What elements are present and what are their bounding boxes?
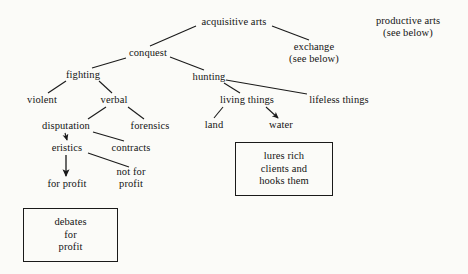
edge-acquisitive-conquest — [150, 26, 196, 46]
edge-conquest-fighting — [92, 58, 126, 68]
node-living-things: living things — [220, 94, 274, 106]
edge-fighting-verbal — [99, 81, 112, 93]
node-productive-arts: productive arts (see below) — [376, 15, 440, 38]
node-conquest: conquest — [129, 47, 167, 59]
node-acquisitive-arts: acquisitive arts — [202, 16, 267, 28]
node-water: water — [269, 119, 293, 131]
diagram-canvas: acquisitive arts exchange (see below) pr… — [0, 0, 468, 274]
edge-hunting-living — [224, 83, 240, 93]
node-verbal: verbal — [101, 94, 128, 106]
node-forensics: forensics — [131, 120, 170, 132]
node-for-profit: for profit — [47, 178, 86, 190]
edge-disputation-contracts — [93, 132, 124, 141]
edge-living-land — [214, 107, 223, 118]
edge-disputation-eristics — [65, 133, 67, 140]
edge-conquest-hunting — [170, 57, 204, 70]
edge-eristics-not-for-profit — [88, 153, 129, 167]
node-eristics: eristics — [52, 142, 83, 154]
node-disputation: disputation — [42, 120, 90, 132]
box-debates-for-profit: debates for profit — [23, 208, 118, 262]
edge-acquisitive-exchange — [272, 26, 309, 40]
node-exchange: exchange (see below) — [289, 41, 339, 64]
edge-fighting-violent — [48, 81, 66, 93]
edge-hunting-lifeless — [226, 80, 307, 94]
edge-verbal-forensics — [128, 107, 144, 119]
node-violent: violent — [27, 94, 57, 106]
box-lures-rich-clients: lures rich clients and hooks them — [235, 142, 333, 196]
node-land: land — [205, 119, 223, 131]
node-hunting: hunting — [193, 71, 226, 83]
edge-living-water — [266, 107, 278, 118]
node-lifeless-things: lifeless things — [309, 94, 369, 106]
node-contracts: contracts — [112, 142, 151, 154]
node-fighting: fighting — [66, 69, 100, 81]
node-not-for-profit: not for profit — [117, 166, 146, 189]
edge-verbal-disputation — [88, 107, 106, 119]
